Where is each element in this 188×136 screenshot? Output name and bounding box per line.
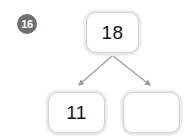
part-box-right[interactable]	[123, 92, 180, 133]
question-number-label: 16	[21, 19, 33, 30]
whole-box[interactable]: 18	[86, 12, 139, 53]
part-box-left[interactable]: 11	[48, 92, 105, 133]
whole-value: 18	[101, 23, 123, 42]
question-number-badge: 16	[17, 14, 37, 34]
arrow-to-right-part	[113, 56, 150, 85]
part-left-value: 11	[66, 103, 87, 122]
arrow-to-left-part	[79, 56, 112, 85]
number-bond-worksheet: 16 18 11	[0, 0, 188, 136]
